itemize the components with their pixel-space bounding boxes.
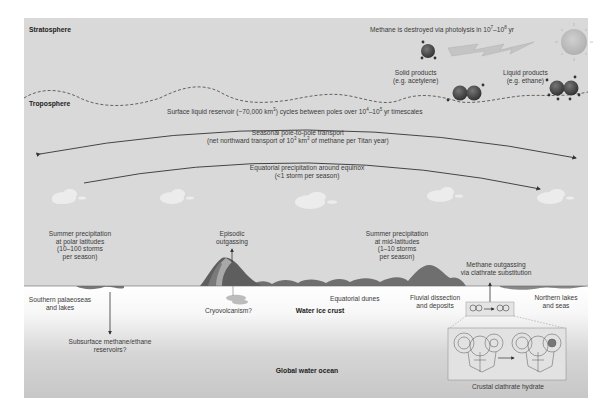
equatorial-precip-label: Equatorial precipitation around equinox(… <box>243 164 371 179</box>
midlat-precip-label: Summer precipitationat mid-latitudes(1–1… <box>362 230 432 260</box>
cryovolcano-icon <box>200 258 262 286</box>
surface-reservoir-label: Surface liquid reservoir (~70,000 km3) c… <box>167 108 423 116</box>
clathrate-small-icon <box>466 302 514 316</box>
global-ocean-label: Global water ocean <box>262 367 352 375</box>
polar-precip-label: Summer precipitationat polar latitudes(1… <box>46 230 114 260</box>
sun-icon <box>555 23 593 61</box>
terrain-dunes <box>250 265 466 286</box>
stratosphere-label: Stratosphere <box>29 26 71 34</box>
liquid-products-label: Liquid products(e.g. ethane) <box>503 69 548 84</box>
ethane-molecule-icon <box>546 76 581 101</box>
southern-lakes <box>76 286 124 289</box>
photolysis-label: Methane is destroyed via photolysis in 1… <box>370 26 514 34</box>
northern-lakes <box>500 286 588 290</box>
fluvial-label: Fluvial dissectionand deposits <box>407 294 463 309</box>
cloud-icon <box>52 187 574 209</box>
northern-lakes-label: Northern lakesand seas <box>530 294 582 309</box>
clathrate-hydrate-detail-icon <box>448 328 566 380</box>
clathrate-hydrate-label: Crustal clathrate hydrate <box>460 383 556 391</box>
clathrate-outgassing-label: Methane outgassingvia clathrate substitu… <box>453 261 539 276</box>
lightning-icon <box>448 42 534 56</box>
southern-lakes-label: Southern palaeoseasand lakes <box>26 296 94 311</box>
cryovolcanism-label: Cryovolcanism? <box>205 307 252 315</box>
solid-products-label: Solid products(e.g. acetylene) <box>393 69 438 84</box>
troposphere-label: Troposphere <box>29 100 70 108</box>
equatorial-dunes-label: Equatorial dunes <box>330 295 380 303</box>
seasonal-transport-label: Seasonal pole-to-pole transport (net nor… <box>207 129 389 144</box>
methane-molecule-icon <box>421 41 437 60</box>
tropopause-boundary <box>24 87 588 106</box>
subsurface-reservoirs-label: Subsurface methane/ethanereservoirs? <box>60 338 160 353</box>
episodic-outgassing-label: Episodicoutgassing <box>212 230 252 245</box>
magma-chamber-icon <box>226 286 248 305</box>
water-ice-crust-label: Water ice crust <box>280 307 360 315</box>
acetylene-molecule-icon <box>447 84 485 102</box>
